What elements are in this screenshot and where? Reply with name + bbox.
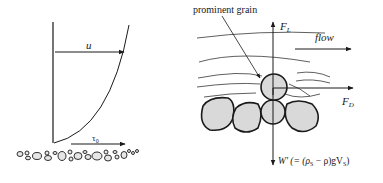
sediment-transport-diagram: u τ0 pr [0, 0, 383, 183]
drag-force-label: FD [341, 95, 354, 109]
lift-force-label: FL [279, 20, 291, 34]
grain-pointer-line [222, 16, 260, 78]
prominent-grain [261, 74, 287, 100]
weight-force-label: W' (= (ρS − ρ)gVS) [278, 156, 349, 167]
shear-stress-label: τ0 [92, 133, 99, 144]
velocity-profile-panel: u τ0 [17, 22, 139, 161]
gravel-bed [17, 150, 139, 162]
flow-label: flow [315, 31, 335, 43]
velocity-label: u [86, 39, 92, 51]
velocity-profile-curve [54, 25, 129, 143]
grain-forces-panel: prominent grain flow FL FD [193, 4, 354, 167]
bed-grains [202, 98, 319, 132]
prominent-grain-label: prominent grain [193, 4, 257, 15]
